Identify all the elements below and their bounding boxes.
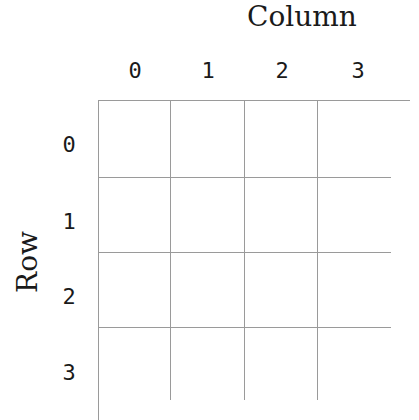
grid-line-left: [98, 100, 99, 420]
row-label-1: 1: [62, 211, 75, 233]
column-label-3: 3: [351, 60, 364, 82]
row-label-3: 3: [62, 362, 75, 384]
column-axis-title: Column: [247, 3, 357, 31]
grid-line-col-2: [244, 100, 245, 400]
grid-line-col-1: [170, 100, 171, 400]
column-label-2: 2: [275, 60, 288, 82]
column-label-0: 0: [128, 60, 141, 82]
row-label-2: 2: [62, 286, 75, 308]
row-label-0: 0: [62, 134, 75, 156]
row-axis-title: Row: [14, 231, 42, 293]
column-label-1: 1: [201, 60, 214, 82]
grid-line-top: [98, 100, 410, 101]
grid-line-col-3: [317, 100, 318, 400]
